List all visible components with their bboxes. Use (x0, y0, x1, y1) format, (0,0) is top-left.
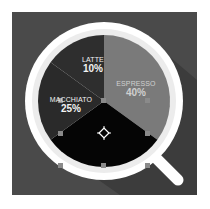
label-espresso: ESPRESSO 40% (113, 80, 159, 98)
label-espresso-name: ESPRESSO (113, 80, 159, 87)
marker (101, 163, 106, 168)
marker (101, 98, 106, 103)
label-latte-name: LATTE (78, 56, 108, 63)
label-latte: LATTE 10% (78, 56, 108, 74)
label-espresso-pct: 40% (113, 88, 159, 98)
marker (145, 131, 150, 136)
marker (145, 98, 150, 103)
magnifier-pie-chart (0, 0, 210, 209)
label-latte-pct: 10% (78, 64, 108, 74)
marker (58, 163, 63, 168)
label-macchiato-pct: 25% (48, 104, 94, 114)
label-macchiato-name: MACCHIATO (48, 96, 94, 103)
marker (58, 131, 63, 136)
label-macchiato: MACCHIATO 25% (48, 96, 94, 114)
marker (145, 163, 150, 168)
